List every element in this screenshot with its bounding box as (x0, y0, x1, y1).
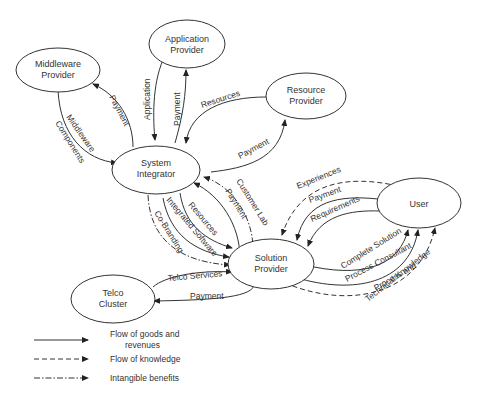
svg-text:revenues: revenues (125, 340, 160, 350)
svg-text:Resource: Resource (287, 85, 326, 95)
legend-item-intangible: Intangible benefits (34, 373, 179, 383)
label-telco-payment: Payment (190, 291, 224, 301)
node-middleware-provider: Middleware Provider (16, 48, 100, 92)
svg-text:Provider: Provider (289, 96, 323, 106)
svg-text:System: System (141, 158, 171, 168)
node-resource-provider: Resource Provider (266, 73, 346, 119)
value-network-diagram: Middleware Provider Application Provider… (0, 0, 482, 397)
svg-text:Application: Application (165, 34, 209, 44)
node-application-provider: Application Provider (149, 20, 225, 68)
svg-text:Cluster: Cluster (99, 299, 128, 309)
svg-text:User: User (409, 199, 428, 209)
label-mw-payment: Payment (107, 93, 132, 128)
label-res-resources: Resources (200, 88, 242, 110)
svg-text:Middleware: Middleware (35, 59, 81, 69)
label-res-payment: Payment (236, 136, 271, 161)
node-telco-cluster: Telco Cluster (71, 275, 155, 323)
label-app-application: Application (142, 78, 152, 120)
legend: Flow of goods and revenues Flow of knowl… (34, 329, 181, 383)
svg-text:Provider: Provider (170, 45, 204, 55)
svg-text:Flow of goods and: Flow of goods and (110, 329, 180, 339)
node-user: User (377, 178, 461, 228)
node-system-integrator: System Integrator (112, 146, 200, 194)
node-solution-provider: Solution Provider (228, 239, 314, 289)
edge-res-resources (186, 97, 266, 143)
edge-app-application (154, 60, 163, 140)
svg-text:Provider: Provider (41, 70, 75, 80)
svg-text:Integrator: Integrator (137, 169, 176, 179)
svg-text:Intangible benefits: Intangible benefits (110, 373, 179, 383)
svg-text:Solution: Solution (255, 253, 288, 263)
svg-text:Flow of knowledge: Flow of knowledge (110, 354, 181, 364)
legend-item-goods-revenues: Flow of goods and revenues (34, 329, 180, 350)
svg-text:Provider: Provider (254, 264, 288, 274)
svg-text:Telco: Telco (102, 288, 123, 298)
label-telco-services: Telco Services (167, 268, 222, 283)
legend-item-knowledge: Flow of knowledge (34, 354, 181, 364)
label-app-payment: Payment (172, 92, 182, 126)
